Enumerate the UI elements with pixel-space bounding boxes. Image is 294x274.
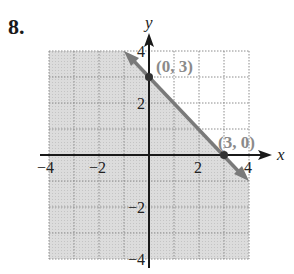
x-tick-neg4: −4 — [37, 159, 54, 176]
coordinate-plane: (0, 3) (3, 0) −4 −2 2 4 4 2 −2 −4 x y — [0, 0, 294, 274]
x-tick-2: 2 — [194, 159, 202, 176]
point-3-0 — [220, 151, 228, 159]
y-tick-neg2: −2 — [128, 199, 145, 216]
x-tick-4: 4 — [244, 159, 252, 176]
y-tick-4: 4 — [137, 43, 145, 60]
y-axis-label: y — [143, 13, 153, 32]
x-tick-neg2: −2 — [89, 159, 106, 176]
point-label-3-0: (3, 0) — [218, 133, 255, 152]
x-axis-label: x — [276, 145, 285, 164]
y-tick-neg4: −4 — [128, 251, 145, 268]
y-tick-2: 2 — [137, 95, 145, 112]
point-0-3 — [145, 73, 153, 81]
point-label-0-3: (0, 3) — [156, 57, 193, 76]
